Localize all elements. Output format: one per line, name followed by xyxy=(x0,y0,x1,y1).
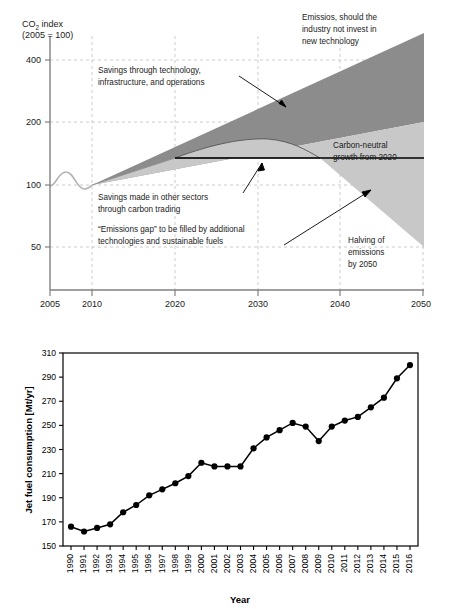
data-point xyxy=(185,473,191,479)
x-tick-label-2011: 2011 xyxy=(339,554,349,573)
y-tick-label-270: 270 xyxy=(42,396,57,406)
data-point xyxy=(198,460,204,466)
x-tick-label-1998: 1998 xyxy=(170,554,180,573)
jet-fuel-svg: 150170190210230250270290310 199019911992… xyxy=(0,330,451,609)
data-point xyxy=(146,492,152,498)
leader-line-technology-savings xyxy=(239,76,286,107)
y-tick-marks xyxy=(45,60,50,247)
data-point xyxy=(250,445,256,451)
data-point xyxy=(303,423,309,429)
leader-line-other-sectors xyxy=(243,163,265,193)
historical-emissions-curve xyxy=(50,172,92,189)
annotation-no-investment-line2: industry not invest in xyxy=(302,25,377,34)
annotation-emissions-gap-line2: technologies and sustainable fuels xyxy=(98,237,223,246)
data-point xyxy=(290,420,296,426)
y-tick-label-150: 150 xyxy=(42,541,57,551)
figure-page: CO2 index (2005 = 100) 400 200 100 50 20… xyxy=(0,0,451,609)
data-point xyxy=(159,486,165,492)
y-tick-label-100: 100 xyxy=(26,180,41,190)
x-tick-label-2040: 2040 xyxy=(330,299,350,309)
plot-frame xyxy=(63,353,418,546)
x-tick-label-2010: 2010 xyxy=(82,299,102,309)
x-tick-label-1994: 1994 xyxy=(117,554,127,573)
data-point xyxy=(237,463,243,469)
y-tick-label-210: 210 xyxy=(42,469,57,479)
data-point xyxy=(394,375,400,381)
jet-fuel-consumption-chart: 150170190210230250270290310 199019911992… xyxy=(0,330,451,609)
y-axis-title-line1: CO2 index xyxy=(22,19,64,31)
x-tick-label-1991: 1991 xyxy=(78,554,88,573)
data-point xyxy=(211,463,217,469)
data-point xyxy=(81,528,87,534)
annotation-technology-savings-line1: Savings through technology, xyxy=(98,66,201,75)
data-point xyxy=(407,362,413,368)
data-point xyxy=(368,404,374,410)
y-tick-label-230: 230 xyxy=(42,445,57,455)
x-tick-label-1990: 1990 xyxy=(65,554,75,573)
y-tick-label-200: 200 xyxy=(26,117,41,127)
data-point xyxy=(133,502,139,508)
x-axis-title-bottom: Year xyxy=(230,594,250,605)
data-point xyxy=(224,463,230,469)
x-tick-label-2008: 2008 xyxy=(300,554,310,573)
x-tick-label-2005: 2005 xyxy=(261,554,271,573)
x-tick-label-2005: 2005 xyxy=(40,299,60,309)
y-tick-label-250: 250 xyxy=(42,420,57,430)
data-point xyxy=(342,417,348,423)
data-point xyxy=(381,395,387,401)
data-point xyxy=(355,414,361,420)
annotation-halving-line3: by 2050 xyxy=(348,260,378,269)
x-tick-label-1993: 1993 xyxy=(104,554,114,573)
annotation-other-sectors-line1: Savings made in other sectors xyxy=(98,193,208,202)
y-tick-label-310: 310 xyxy=(42,348,57,358)
y-tick-label-400: 400 xyxy=(26,55,41,65)
x-tick-label-1996: 1996 xyxy=(143,554,153,573)
annotation-halving-line1: Halving of xyxy=(348,236,385,245)
x-tick-label-2050: 2050 xyxy=(411,299,431,309)
annotation-carbon-neutral-line2: growth from 2020 xyxy=(333,153,397,162)
y-axis-title-line2: (2005 = 100) xyxy=(22,30,73,40)
data-markers xyxy=(68,362,413,535)
data-point xyxy=(120,509,126,515)
x-tick-label-2002: 2002 xyxy=(222,554,232,573)
data-point xyxy=(316,438,322,444)
x-tick-label-2020: 2020 xyxy=(165,299,185,309)
x-tick-label-2009: 2009 xyxy=(313,554,323,573)
x-tick-label-2006: 2006 xyxy=(274,554,284,573)
x-tick-label-2012: 2012 xyxy=(352,554,362,573)
data-point xyxy=(329,423,335,429)
x-tick-marks xyxy=(50,290,423,296)
annotation-emissions-gap-line1: “Emissions gap” to be filled by addition… xyxy=(98,225,245,234)
x-axis-labels-bottom: 1990199119921993199419951996199719981999… xyxy=(65,554,414,573)
x-tick-label-2000: 2000 xyxy=(196,554,206,573)
co2-index-svg: CO2 index (2005 = 100) 400 200 100 50 20… xyxy=(0,0,451,330)
x-tick-label-2016: 2016 xyxy=(404,554,414,573)
data-point xyxy=(94,525,100,531)
annotation-carbon-neutral-line1: Carbon-neutral xyxy=(333,141,388,150)
x-tick-label-1992: 1992 xyxy=(91,554,101,573)
data-line xyxy=(71,365,410,531)
x-tick-label-1997: 1997 xyxy=(157,554,167,573)
x-tick-label-2030: 2030 xyxy=(248,299,268,309)
annotation-no-investment-line3: new technology xyxy=(302,37,360,46)
x-tick-label-2003: 2003 xyxy=(235,554,245,573)
annotation-no-investment-line1: Emissios, should the xyxy=(302,13,378,22)
data-point xyxy=(68,524,74,530)
annotation-halving-line2: emissions xyxy=(348,248,384,257)
data-point xyxy=(172,480,178,486)
annotation-other-sectors-line2: through carbon trading xyxy=(98,205,181,214)
x-tick-label-1995: 1995 xyxy=(130,554,140,573)
x-tick-label-1999: 1999 xyxy=(183,554,193,573)
y-tick-label-190: 190 xyxy=(42,493,57,503)
y-tick-label-50: 50 xyxy=(31,242,41,252)
annotation-technology-savings-line2: infrastructure, and operations xyxy=(98,78,205,87)
y-axis-ticks-bottom: 150170190210230250270290310 xyxy=(42,348,63,551)
y-tick-label-290: 290 xyxy=(42,372,57,382)
co2-index-chart: CO2 index (2005 = 100) 400 200 100 50 20… xyxy=(0,0,451,330)
y-axis-title-bottom: Jet fuel consumption [Mt/yr] xyxy=(23,386,34,513)
x-tick-label-2004: 2004 xyxy=(248,554,258,573)
x-tick-label-2013: 2013 xyxy=(365,554,375,573)
data-point xyxy=(107,521,113,527)
x-tick-label-2001: 2001 xyxy=(209,554,219,573)
data-point xyxy=(263,434,269,440)
